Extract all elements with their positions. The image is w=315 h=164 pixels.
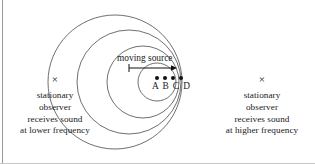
moving-source-label: moving source (117, 53, 172, 63)
source-dot-d (179, 76, 183, 80)
observer-right-line-1: stationary (212, 90, 312, 102)
observer-left-line-3: receives sound (5, 114, 105, 126)
observer-left-line-2: observer (5, 102, 105, 114)
observer-left-line-1: stationary (5, 90, 105, 102)
observer-right-x-icon: × (212, 74, 312, 85)
observer-left: × stationary observer receives sound at … (5, 74, 105, 137)
observer-right-line-4: at higher frequency (212, 125, 312, 137)
source-direction-arrow (129, 64, 177, 72)
observer-right: × stationary observer receives sound at … (212, 74, 312, 137)
observer-right-line-3: receives sound (212, 114, 312, 126)
source-position-labels: A B C D (152, 81, 191, 91)
doppler-effect-figure: moving source A B C D × stationary obser… (0, 0, 315, 164)
source-position-dots (155, 76, 183, 80)
observer-left-line-4: at lower frequency (5, 125, 105, 137)
source-dot-b (163, 76, 167, 80)
arrow-head-icon (171, 65, 177, 71)
source-dot-c (171, 76, 175, 80)
observer-left-x-icon: × (5, 74, 105, 85)
source-dot-a (155, 76, 159, 80)
observer-right-line-2: observer (212, 102, 312, 114)
